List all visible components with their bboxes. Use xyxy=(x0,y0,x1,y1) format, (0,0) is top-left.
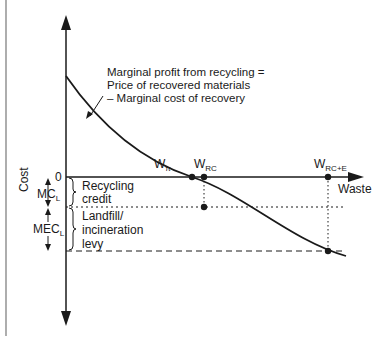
mec-l-arrow-down-icon xyxy=(45,244,51,251)
annotation-line-3: – Marginal cost of recovery xyxy=(107,92,245,104)
y-axis-label: Cost xyxy=(17,167,31,192)
recycling-credit-line-2: credit xyxy=(82,192,112,206)
w-rce-curve-point xyxy=(325,248,331,254)
y-axis-arrow-up-icon xyxy=(61,15,71,30)
zero-label: 0 xyxy=(55,170,62,184)
levy-line-3: levy xyxy=(82,237,103,251)
recycling-credit-brace xyxy=(69,178,76,206)
levy-line-2: incineration xyxy=(82,223,143,237)
x-axis-label: Waste xyxy=(338,182,372,196)
mec-l-arrow-up-icon xyxy=(45,208,51,215)
w-rc-axis-point xyxy=(201,174,207,180)
mc-l-arrow-down-icon xyxy=(45,200,51,207)
mc-l-label: MCL xyxy=(37,187,61,203)
levy-line-1: Landfill/ xyxy=(82,209,124,223)
annotation-line-1: Marginal profit from recycling = xyxy=(107,66,265,78)
w-pi-point xyxy=(189,174,195,180)
annotation-line-2: Price of recovered materials xyxy=(107,79,250,91)
recycling-diagram: Marginal profit from recycling = Price o… xyxy=(0,0,387,346)
w-rc-label: WRC xyxy=(194,157,217,173)
w-rce-label: WRC+E xyxy=(314,157,347,173)
x-axis-arrow-right-icon xyxy=(348,172,364,182)
w-rc-curve-point xyxy=(201,204,207,210)
w-rce-axis-point xyxy=(325,174,331,180)
recycling-credit-line-1: Recycling xyxy=(82,179,134,193)
mc-l-arrow-up-icon xyxy=(45,178,51,185)
y-axis-arrow-down-icon xyxy=(61,311,71,326)
levy-brace xyxy=(69,208,76,250)
w-pi-label: Wπ xyxy=(154,157,171,173)
